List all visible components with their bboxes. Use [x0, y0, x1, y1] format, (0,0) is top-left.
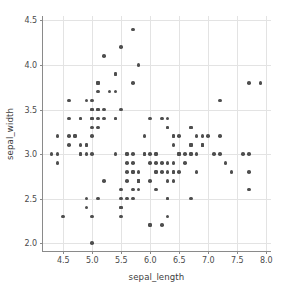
gridline-vertical [266, 16, 267, 251]
data-point [154, 170, 158, 174]
data-point [79, 143, 83, 147]
data-point [85, 143, 89, 147]
data-point [125, 170, 129, 174]
x-tick-label: 7.5 [231, 256, 243, 265]
data-point [218, 134, 222, 138]
data-point [148, 179, 152, 183]
x-tick-mark [63, 251, 64, 254]
data-point [102, 179, 106, 183]
data-point [56, 161, 60, 165]
data-point [85, 197, 89, 201]
data-point [85, 206, 89, 210]
data-point [90, 215, 94, 219]
data-point [108, 90, 112, 94]
data-point [102, 54, 106, 58]
data-point [172, 161, 176, 165]
data-point [114, 90, 118, 94]
data-point [177, 134, 181, 138]
data-point [119, 215, 123, 219]
data-point [166, 197, 170, 201]
data-point [90, 117, 94, 121]
data-point [154, 152, 158, 156]
data-point [218, 152, 222, 156]
x-tick-mark [266, 251, 267, 254]
y-axis-label-text: sepal_width [5, 108, 15, 160]
data-point [79, 152, 83, 156]
y-tick-label: 4.0 [25, 60, 37, 69]
data-point [148, 161, 152, 165]
data-point [177, 152, 181, 156]
data-point [67, 99, 71, 103]
data-point [259, 81, 263, 85]
data-point [114, 117, 118, 121]
data-point [177, 170, 181, 174]
y-tick-mark [40, 20, 43, 21]
data-point [125, 152, 129, 156]
data-point [172, 143, 176, 147]
data-point [166, 215, 170, 219]
y-tick-mark [40, 243, 43, 244]
data-point [183, 152, 187, 156]
data-point [166, 170, 170, 174]
data-point [143, 134, 147, 138]
y-tick-label: 2.5 [25, 194, 37, 203]
x-tick-label: 8.0 [260, 256, 272, 265]
data-point [96, 126, 100, 130]
data-point [201, 134, 205, 138]
data-point [67, 117, 71, 121]
data-point [67, 134, 71, 138]
data-point [247, 152, 251, 156]
data-point [189, 152, 193, 156]
data-point [73, 134, 77, 138]
data-point [96, 81, 100, 85]
data-point [119, 188, 123, 192]
data-point [131, 161, 135, 165]
x-tick-mark [179, 251, 180, 254]
data-point [148, 117, 152, 121]
data-point [160, 223, 164, 227]
data-point [102, 117, 106, 121]
data-point [114, 72, 118, 76]
x-axis-label: sepal_length [42, 272, 271, 282]
data-point [131, 170, 135, 174]
data-point [247, 81, 251, 85]
data-point [172, 179, 176, 183]
gridline-horizontal [43, 110, 271, 111]
data-point [119, 206, 123, 210]
data-point [166, 179, 170, 183]
data-point [172, 134, 176, 138]
data-point [247, 188, 251, 192]
data-point [172, 170, 176, 174]
y-axis-label: sepal_width [4, 16, 16, 252]
x-tick-label: 4.5 [57, 256, 69, 265]
data-point [137, 170, 141, 174]
data-point [195, 170, 199, 174]
data-point [125, 179, 129, 183]
x-tick-mark [92, 251, 93, 254]
data-point [166, 126, 170, 130]
data-point [50, 152, 54, 156]
data-point [90, 126, 94, 130]
data-point [183, 161, 187, 165]
x-tick-label: 5.0 [86, 256, 98, 265]
data-point [125, 161, 129, 165]
data-point [206, 134, 210, 138]
data-point [131, 81, 135, 85]
scatter-plot-figure: 4.55.05.56.06.57.07.58.0 2.02.53.03.54.0… [0, 0, 283, 294]
data-point [212, 152, 216, 156]
y-tick-mark [40, 199, 43, 200]
x-tick-mark [150, 251, 151, 254]
data-point [148, 152, 152, 156]
data-point [137, 188, 141, 192]
gridline-horizontal [43, 20, 271, 21]
data-point [85, 152, 89, 156]
data-point [218, 99, 222, 103]
data-point [137, 179, 141, 183]
data-point [195, 134, 199, 138]
data-point [247, 170, 251, 174]
data-point [56, 152, 60, 156]
data-point [241, 152, 245, 156]
data-point [90, 134, 94, 138]
data-point [96, 108, 100, 112]
data-point [148, 223, 152, 227]
